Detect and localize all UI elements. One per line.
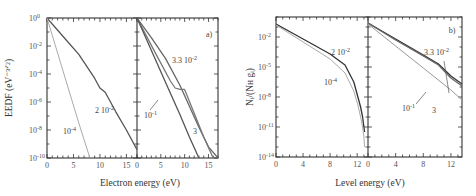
y-tick-label: 10-14 (258, 152, 274, 163)
y-tick-label: 10-6 (29, 97, 42, 108)
x-tick-label: 10 (96, 161, 104, 170)
x-axis-label: Level energy (eV) (335, 178, 404, 189)
annotation-leader (444, 61, 449, 93)
y-tick-label: 10-2 (258, 32, 271, 43)
y-tick-label: 100 (29, 13, 40, 24)
y-tick-label: 10-2 (29, 41, 42, 52)
panel-a: 10010-210-410-610-810-100510152 10-210-4… (4, 13, 218, 190)
series-line-10-4 (276, 25, 365, 147)
y-tick-label: 10-10 (29, 153, 45, 164)
series-annotation: 3.3 10-2 (424, 47, 449, 58)
plot-frame (47, 18, 218, 158)
x-tick-label: 12 (353, 160, 361, 169)
x-tick-label: 5 (159, 161, 163, 170)
x-tick-label: 0 (274, 160, 278, 169)
y-axis-label: EEDF (eV⁻³ᐟ²) (4, 59, 15, 117)
series-annotation: 10-1 (402, 103, 415, 114)
series-annotation: 3.3 10-2 (172, 55, 197, 66)
x-tick-label: 0 (45, 161, 49, 170)
series-annotation: 10-4 (63, 126, 76, 137)
x-tick-label: 4 (301, 160, 305, 169)
figure-canvas: 10010-210-410-610-810-100510152 10-210-4… (0, 0, 476, 196)
y-tick-label: 10-4 (29, 69, 42, 80)
x-tick-label: 10 (181, 161, 189, 170)
panel-b: 10-210-510-810-1110-14048122 10-210-4048… (245, 17, 462, 189)
x-tick-label: 5 (71, 161, 75, 170)
series-line-10-4 (47, 18, 90, 158)
series-line-3 (137, 18, 199, 158)
x-tick-label: 15 (204, 161, 212, 170)
y-axis-label: Nᵢ/(Nʜ gᵢ) (245, 68, 256, 106)
x-tick-label: 4 (394, 160, 398, 169)
annotation-leader (150, 100, 158, 110)
y-tick-label: 10-8 (29, 125, 42, 136)
panel-label: a) (206, 30, 213, 39)
series-line-10-1 (137, 18, 213, 158)
x-tick-label: 15 (122, 161, 130, 170)
series-annotation: 10-1 (144, 110, 157, 121)
x-tick-label: 0 (366, 160, 370, 169)
series-annotation: 2 10-2 (331, 47, 350, 58)
series-annotation: 3 (193, 127, 197, 136)
x-tick-label: 0 (135, 161, 139, 170)
series-annotation: 2 10-2 (95, 105, 114, 116)
x-tick-label: 8 (421, 160, 425, 169)
x-tick-label: 12 (447, 160, 455, 169)
y-tick-label: 10-11 (258, 122, 274, 133)
series-line-2-10-2 (276, 24, 365, 132)
series-line-3 (368, 24, 462, 100)
x-tick-label: 8 (328, 160, 332, 169)
x-axis-label: Electron energy (eV) (100, 178, 180, 189)
series-line-3-3-10-2 (137, 18, 218, 158)
series-annotation: 3 (432, 106, 436, 115)
y-tick-label: 10-8 (258, 92, 271, 103)
series-line-2-10-2 (47, 18, 137, 150)
annotation-leader (416, 92, 426, 104)
y-tick-label: 10-5 (258, 62, 271, 73)
panel-label: b) (449, 26, 456, 35)
series-annotation: 10-4 (324, 77, 337, 88)
